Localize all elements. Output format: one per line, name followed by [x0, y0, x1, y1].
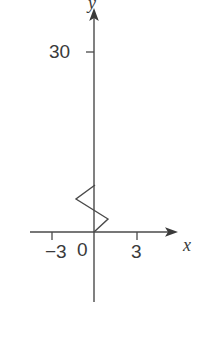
x-axis-label: x — [183, 236, 191, 254]
graph-figure: 30 −3 0 3 x y — [0, 0, 212, 347]
curve-path — [76, 185, 108, 232]
x-tick-label-minus3: −3 — [45, 242, 67, 261]
y-axis-label: y — [88, 0, 96, 12]
plot-canvas — [0, 0, 212, 347]
origin-label: 0 — [77, 240, 88, 259]
y-tick-label-30: 30 — [49, 42, 70, 61]
x-tick-label-3: 3 — [131, 242, 142, 261]
